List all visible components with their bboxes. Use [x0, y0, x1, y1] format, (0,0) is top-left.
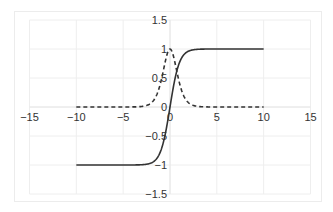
x-tick-label: −5	[117, 111, 130, 123]
y-tick-label: 0.5	[152, 72, 167, 84]
y-tick-label: −1	[154, 159, 167, 171]
x-tick-label: −15	[20, 111, 39, 123]
y-tick-label: 0	[161, 101, 167, 113]
y-tick-label: 1	[161, 43, 167, 55]
y-tick-label: −1.5	[145, 188, 167, 200]
x-tick-label: 10	[258, 111, 270, 123]
line-chart: −15−10−5051015 1.510.50−0.5−1−1.5	[0, 0, 333, 212]
x-tick-label: 5	[214, 111, 220, 123]
x-tick-label: −10	[67, 111, 86, 123]
x-tick-label: 15	[304, 111, 316, 123]
y-tick-label: 1.5	[152, 14, 167, 26]
